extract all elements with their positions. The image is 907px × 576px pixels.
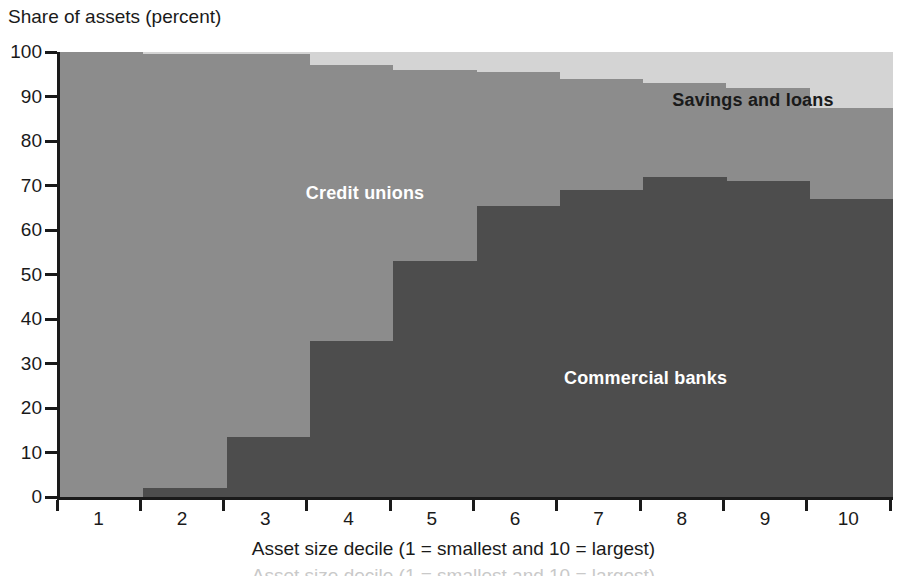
x-axis-tick [56, 500, 59, 511]
x-axis-tick [889, 500, 892, 511]
y-axis-tick-label: 80 [0, 131, 42, 150]
y-axis-tick [45, 184, 57, 187]
y-axis-tick-label: 90 [0, 87, 42, 106]
figure-caption-cropped: Asset size decile (1 = smallest and 10 =… [0, 566, 907, 576]
annotation-commercial-banks: Commercial banks [564, 368, 727, 389]
area-segment [393, 261, 477, 497]
x-axis-tick [139, 500, 142, 511]
area-segment [227, 437, 311, 497]
area-segment [643, 177, 727, 497]
plot-area: Savings and loans Credit unions Commerci… [57, 52, 893, 500]
annotation-savings-and-loans: Savings and loans [672, 90, 833, 111]
x-axis-tick-label: 9 [735, 508, 795, 529]
x-axis-tick-label: 2 [152, 508, 212, 529]
y-axis-tick [45, 362, 57, 365]
x-axis-tick-label: 7 [568, 508, 628, 529]
area-segment [310, 341, 394, 497]
figure-caption-text: Asset size decile (1 = smallest and 10 =… [0, 566, 907, 576]
x-axis-tick [639, 500, 642, 511]
y-axis-tick-label: 100 [0, 42, 42, 61]
y-axis-tick [45, 451, 57, 454]
y-axis-tick [45, 318, 57, 321]
x-axis-tick-label: 3 [235, 508, 295, 529]
figure-stacked-area-chart: Share of assets (percent) Savings and lo… [0, 0, 907, 576]
y-axis-tick-label: 20 [0, 398, 42, 417]
y-axis-tick [45, 229, 57, 232]
y-axis-tick-label: 10 [0, 443, 42, 462]
y-axis-tick-label: 60 [0, 220, 42, 239]
x-axis-tick-label: 8 [652, 508, 712, 529]
x-axis-tick-label: 5 [402, 508, 462, 529]
y-axis-title: Share of assets (percent) [8, 6, 221, 28]
area-segment [810, 199, 893, 497]
x-axis-tick [722, 500, 725, 511]
y-axis-tick-label: 50 [0, 265, 42, 284]
x-axis-tick [805, 500, 808, 511]
area-segment [726, 181, 810, 497]
x-axis-tick-label: 10 [818, 508, 878, 529]
x-axis-tick [305, 500, 308, 511]
area-segment [477, 206, 561, 497]
y-axis-tick-label: 70 [0, 176, 42, 195]
y-axis-tick [45, 51, 57, 54]
area-segment [560, 190, 644, 497]
x-axis-tick-label: 6 [485, 508, 545, 529]
y-axis-tick-label: 0 [0, 487, 42, 506]
x-axis-tick [472, 500, 475, 511]
y-axis-tick [45, 140, 57, 143]
x-axis-tick [555, 500, 558, 511]
x-axis-title: Asset size decile (1 = smallest and 10 =… [0, 538, 907, 560]
series-commercial-banks [60, 52, 893, 497]
y-axis-tick-label: 40 [0, 309, 42, 328]
x-axis-tick-label: 4 [319, 508, 379, 529]
x-axis-tick-label: 1 [69, 508, 129, 529]
annotation-credit-unions: Credit unions [306, 183, 425, 204]
y-axis-tick [45, 273, 57, 276]
y-axis-tick [45, 407, 57, 410]
area-segment [143, 488, 227, 497]
plot-inner: Savings and loans Credit unions Commerci… [60, 52, 893, 497]
y-axis-tick [45, 496, 57, 499]
y-axis-tick-label: 30 [0, 354, 42, 373]
x-axis-tick [389, 500, 392, 511]
x-axis-tick [222, 500, 225, 511]
y-axis-tick [45, 95, 57, 98]
